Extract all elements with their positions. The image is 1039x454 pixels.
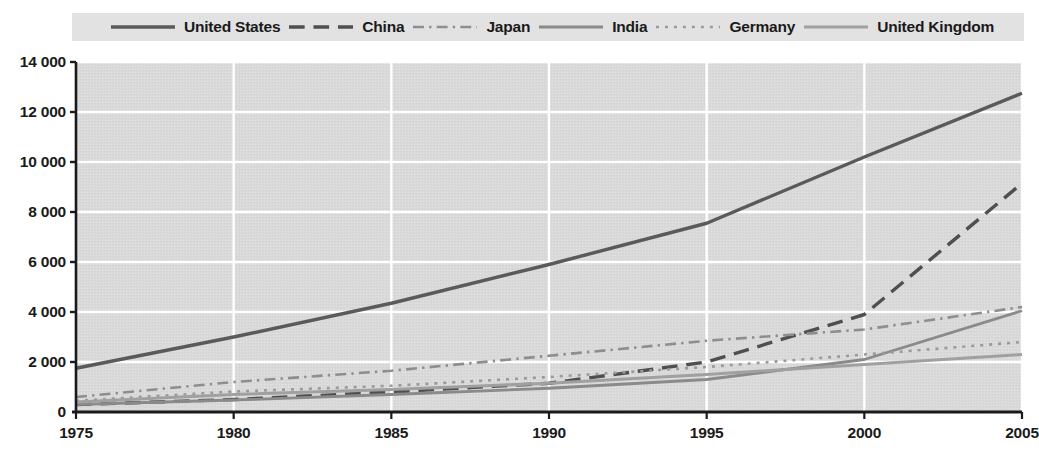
- x-axis-tick-label: 2005: [1005, 424, 1039, 442]
- y-axis-labels: 14 00012 00010 0008 0006 0004 0002 0000: [0, 60, 66, 420]
- y-axis-tick-label: 8 000: [0, 203, 66, 221]
- y-axis-tick-label: 10 000: [0, 153, 66, 171]
- y-axis-tick-label: 6 000: [0, 253, 66, 271]
- x-axis-labels: 1975198019851990199520002005: [0, 424, 1036, 450]
- x-axis-tick-label: 1985: [374, 424, 408, 442]
- x-axis-tick-label: 1990: [532, 424, 566, 442]
- y-axis-tick-label: 2 000: [0, 353, 66, 371]
- y-axis-tick-label: 14 000: [0, 53, 66, 71]
- y-axis-tick-label: 12 000: [0, 103, 66, 121]
- x-axis-tick-label: 1975: [59, 424, 93, 442]
- x-axis-tick-label: 1980: [217, 424, 251, 442]
- y-axis-tick-label: 0: [0, 403, 66, 421]
- y-axis-tick-label: 4 000: [0, 303, 66, 321]
- x-axis-tick-label: 1995: [690, 424, 724, 442]
- x-axis-tick-label: 2000: [847, 424, 881, 442]
